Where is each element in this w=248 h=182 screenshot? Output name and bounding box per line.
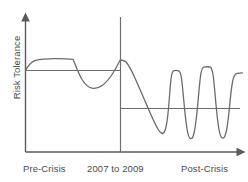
x-axis-arrow-icon: [237, 148, 246, 156]
risk-tolerance-chart: Risk Tolerance Pre-Crisis 2007 to 2009 P…: [0, 0, 248, 182]
risk-tolerance-curve-post-crisis: [162, 67, 242, 139]
x-tick-label-post-crisis: Post-Crisis: [181, 163, 228, 174]
y-axis-title: Risk Tolerance: [11, 13, 22, 123]
y-axis-arrow-icon: [21, 13, 30, 22]
x-tick-label-pre-crisis: Pre-Crisis: [23, 163, 66, 174]
x-tick-label-crisis: 2007 to 2009: [87, 163, 144, 174]
risk-tolerance-curve-pre-crisis: [26, 59, 163, 134]
chart-plot-area: [0, 0, 248, 182]
